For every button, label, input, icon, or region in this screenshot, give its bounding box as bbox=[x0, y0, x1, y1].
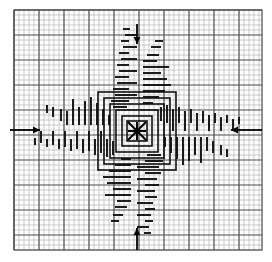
center-marker bbox=[128, 122, 146, 140]
plot-svg bbox=[0, 0, 272, 262]
figure-canvas bbox=[0, 0, 272, 262]
